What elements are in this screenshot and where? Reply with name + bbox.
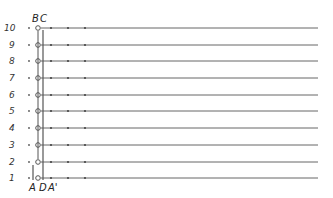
junction-dot (67, 27, 69, 29)
row-number-label: 4 (9, 123, 15, 133)
junction-dot (67, 77, 69, 79)
row-7: 7 (9, 73, 318, 83)
junction-dot (67, 144, 69, 146)
lead-dot (28, 60, 30, 62)
junction-dot (50, 60, 52, 62)
row-3: 3 (9, 140, 318, 150)
lead-dot (28, 27, 30, 29)
junction-dot (67, 127, 69, 129)
junction-dot (50, 177, 52, 179)
row-5: 5 (9, 106, 318, 116)
row-number-label: 8 (9, 56, 15, 66)
node-circle-icon (36, 160, 41, 165)
lead-dot (28, 94, 30, 96)
row-number-label: 7 (9, 73, 15, 83)
junction-dot (84, 127, 86, 129)
junction-dot (84, 161, 86, 163)
junction-dot (84, 27, 86, 29)
junction-dot (67, 161, 69, 163)
junction-dot (84, 77, 86, 79)
junction-dot (67, 94, 69, 96)
lead-dot (28, 110, 30, 112)
junction-dot (84, 110, 86, 112)
junction-dot (50, 77, 52, 79)
junction-dot (67, 177, 69, 179)
junction-dot (50, 44, 52, 46)
lead-dot (28, 77, 30, 79)
row-6: 6 (9, 90, 318, 100)
label-a-prime: A' (47, 182, 58, 193)
row-number-label: 3 (9, 140, 15, 150)
junction-dot (50, 110, 52, 112)
junction-dot (67, 60, 69, 62)
lead-dot (28, 127, 30, 129)
junction-dot (50, 94, 52, 96)
row-4: 4 (9, 123, 318, 133)
node-circle-icon (36, 176, 41, 181)
row-2: 2 (9, 157, 318, 167)
label-a: A (28, 182, 36, 193)
junction-dot (50, 27, 52, 29)
row-number-label: 6 (9, 90, 15, 100)
row-number-label: 10 (4, 23, 16, 33)
junction-dot (50, 144, 52, 146)
junction-dot (84, 60, 86, 62)
row-9: 9 (9, 40, 318, 50)
row-number-label: 2 (9, 157, 15, 167)
lead-dot (28, 144, 30, 146)
lead-dot (28, 44, 30, 46)
junction-dot (84, 144, 86, 146)
junction-dot (84, 94, 86, 96)
junction-dot (84, 44, 86, 46)
junction-dot (50, 127, 52, 129)
label-c: C (40, 13, 47, 24)
row-number-label: 5 (9, 106, 15, 116)
row-10: 10 (4, 23, 318, 33)
label-d: D (39, 182, 47, 193)
junction-dot (50, 161, 52, 163)
row-8: 8 (9, 56, 318, 66)
lead-dot (28, 161, 30, 163)
label-b: B (32, 13, 39, 24)
junction-dot (67, 110, 69, 112)
junction-dot (84, 177, 86, 179)
row-number-label: 1 (9, 173, 15, 183)
node-circle-icon (36, 26, 41, 31)
lead-dot (28, 177, 30, 179)
row-number-label: 9 (9, 40, 15, 50)
ladder-diagram: 10987654321 B C A D A' (0, 0, 333, 198)
junction-dot (67, 44, 69, 46)
rows-group: 10987654321 (4, 23, 318, 183)
